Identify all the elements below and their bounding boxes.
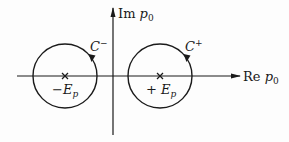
imag-label-sub: 0 bbox=[148, 13, 154, 23]
imag-label-prefix: Im bbox=[118, 6, 135, 21]
imaginary-axis-label: Im p0 bbox=[118, 7, 154, 23]
real-label-var: p bbox=[265, 69, 273, 84]
c-minus-name: C bbox=[90, 39, 100, 54]
c-plus-sup: + bbox=[195, 38, 203, 48]
contour-c-minus-label: C− bbox=[90, 39, 108, 53]
contour-c-plus-label: C+ bbox=[185, 39, 203, 53]
pole-neg-var: E bbox=[63, 82, 73, 97]
pole-pos-var: E bbox=[161, 82, 171, 97]
pole-pos-sign: + bbox=[146, 82, 161, 97]
c-plus-direction-arrow-icon bbox=[184, 54, 191, 62]
pole-neg-sub: p bbox=[72, 89, 78, 99]
pole-pos-sub: p bbox=[171, 89, 177, 99]
c-plus-name: C bbox=[185, 39, 195, 54]
real-label-prefix: Re bbox=[243, 69, 260, 84]
real-label-sub: 0 bbox=[273, 76, 279, 86]
pole-neg-label: −Ep bbox=[52, 83, 78, 99]
c-minus-sup: − bbox=[100, 38, 108, 48]
pole-neg-sign: − bbox=[52, 82, 63, 97]
imag-label-var: p bbox=[140, 6, 148, 21]
contour-diagram: Im p0 Re p0 C− C+ −Ep + Ep bbox=[0, 0, 289, 142]
real-axis-label: Re p0 bbox=[243, 70, 279, 86]
c-minus-direction-arrow-icon bbox=[89, 54, 96, 62]
pole-pos-label: + Ep bbox=[146, 83, 176, 99]
